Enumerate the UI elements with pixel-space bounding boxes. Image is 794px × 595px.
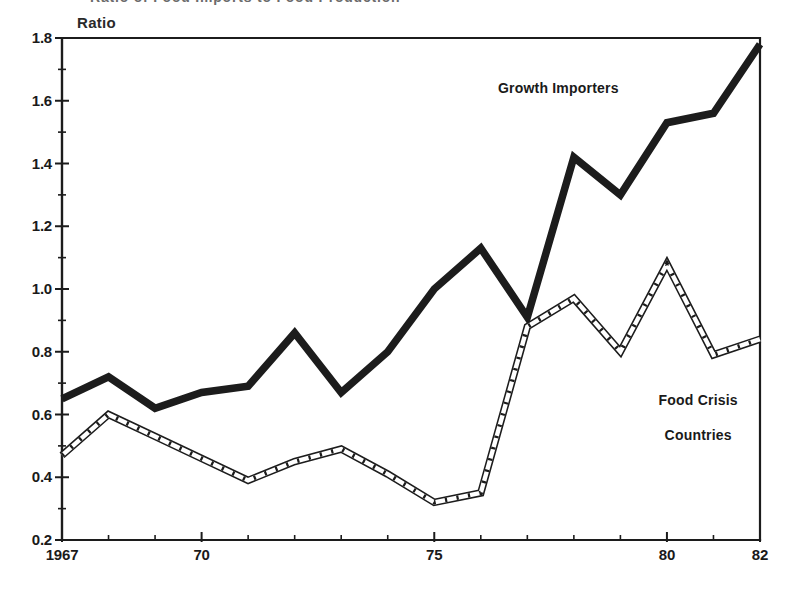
- y-axis-tick-label: 0.2: [0, 531, 52, 548]
- y-axis-tick-label: 1.6: [0, 92, 52, 109]
- y-axis-tick-label: 1.8: [0, 29, 52, 46]
- y-axis-tick-label: 1.0: [0, 280, 52, 297]
- chart-figure: Ratio of Food Imports to Food Production…: [0, 0, 794, 595]
- series-label-growth-importers: Growth Importers: [498, 80, 619, 98]
- y-axis-tick-label: 0.8: [0, 343, 52, 360]
- x-axis-tick-label: 82: [752, 546, 768, 563]
- y-axis-tick-label: 1.4: [0, 155, 52, 172]
- x-axis-tick-label: 75: [426, 546, 442, 563]
- y-axis-tick-label: 0.4: [0, 468, 52, 485]
- x-axis-tick-label: 1967: [46, 546, 79, 563]
- x-axis-tick-label: 80: [659, 546, 675, 563]
- series-line-growth-importers: [62, 44, 760, 408]
- y-axis-tick-label: 0.6: [0, 406, 52, 423]
- plot-canvas: [0, 0, 794, 595]
- series-label-food-crisis-countries: Food Crisis Countries: [642, 374, 738, 462]
- y-axis-tick-label: 1.2: [0, 217, 52, 234]
- series-label-fcc-line1: Food Crisis: [659, 392, 738, 408]
- series-label-fcc-line2: Countries: [665, 427, 732, 443]
- x-axis-tick-label: 70: [193, 546, 209, 563]
